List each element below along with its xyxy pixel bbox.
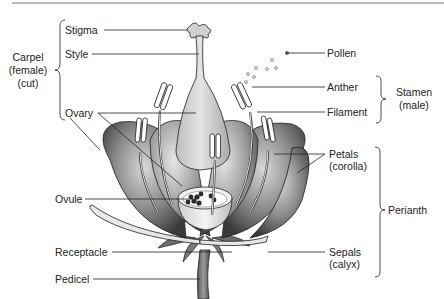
ovary-shape bbox=[176, 36, 230, 170]
group-carpel-line3: (cut) bbox=[6, 77, 50, 90]
group-stamen-line2: (male) bbox=[389, 99, 439, 112]
carpel-brace bbox=[55, 20, 65, 120]
pedicel-stem bbox=[197, 250, 210, 299]
pollen-grains bbox=[245, 51, 289, 83]
group-carpel-line2: (female) bbox=[6, 64, 50, 77]
group-carpel-line1: Carpel bbox=[6, 51, 50, 64]
label-sepals-main: Sepals bbox=[329, 246, 361, 258]
label-style: Style bbox=[65, 48, 88, 60]
label-anther: Anther bbox=[327, 81, 358, 93]
group-stamen-line1: Stamen bbox=[389, 86, 439, 99]
group-carpel: Carpel (female) (cut) bbox=[6, 51, 50, 90]
label-stigma: Stigma bbox=[65, 24, 98, 36]
label-petals-sub: (corolla) bbox=[329, 160, 367, 172]
label-petals: Petals (corolla) bbox=[329, 148, 367, 172]
label-filament: Filament bbox=[327, 106, 367, 118]
carpel bbox=[176, 23, 230, 170]
label-receptacle: Receptacle bbox=[55, 246, 108, 258]
label-ovary: Ovary bbox=[65, 107, 93, 119]
label-pedicel: Pedicel bbox=[55, 273, 89, 285]
group-stamen: Stamen (male) bbox=[389, 86, 439, 112]
stamen-brace bbox=[376, 76, 386, 123]
label-sepals-sub: (calyx) bbox=[329, 258, 361, 270]
group-perianth: Perianth bbox=[388, 204, 440, 217]
label-sepals: Sepals (calyx) bbox=[329, 246, 361, 270]
perianth-brace bbox=[375, 147, 385, 277]
label-ovule: Ovule bbox=[55, 193, 82, 205]
label-pollen: Pollen bbox=[327, 47, 356, 59]
label-petals-main: Petals bbox=[329, 148, 367, 160]
group-perianth-line1: Perianth bbox=[388, 204, 440, 217]
